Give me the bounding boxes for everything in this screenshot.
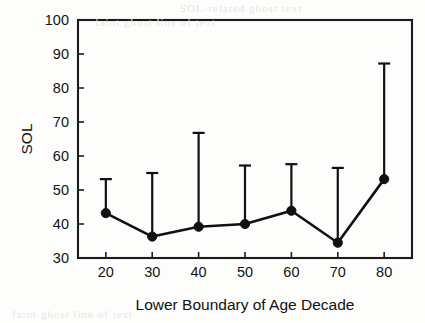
x-tick-label-20: 20	[98, 264, 114, 280]
y-tick-label-70: 70	[53, 114, 69, 130]
x-tick-label-60: 60	[283, 264, 299, 280]
data-point-50	[240, 219, 249, 228]
x-tick-label-40: 40	[191, 264, 207, 280]
data-point-30	[148, 232, 157, 241]
x-tick-label-50: 50	[237, 264, 253, 280]
x-axis-tick-labels: 20304050607080	[98, 264, 392, 280]
x-tick-label-80: 80	[376, 264, 392, 280]
data-point-80	[380, 175, 389, 184]
y-tick-label-80: 80	[53, 80, 69, 96]
data-point-20	[101, 209, 110, 218]
y-tick-label-40: 40	[53, 216, 69, 232]
x-tick-label-70: 70	[330, 264, 346, 280]
y-tick-label-100: 100	[45, 12, 69, 28]
data-point-60	[287, 206, 296, 215]
error-bars-group	[100, 64, 390, 243]
y-tick-label-90: 90	[53, 46, 69, 62]
y-tick-label-30: 30	[53, 250, 69, 266]
x-axis-title: Lower Boundary of Age Decade	[136, 296, 355, 313]
y-tick-label-60: 60	[53, 148, 69, 164]
y-axis-tick-labels: 30405060708090100	[45, 12, 69, 266]
figure-panel: SOL-related ghost text faint ghost line …	[0, 0, 425, 323]
y-tick-label-50: 50	[53, 182, 69, 198]
data-point-70	[333, 238, 342, 247]
y-axis-title: SOL	[18, 123, 35, 154]
data-point-40	[194, 222, 203, 231]
sol-vs-age-decade-chart: 30405060708090100 20304050607080 Lower B…	[0, 0, 425, 323]
x-tick-label-30: 30	[144, 264, 160, 280]
